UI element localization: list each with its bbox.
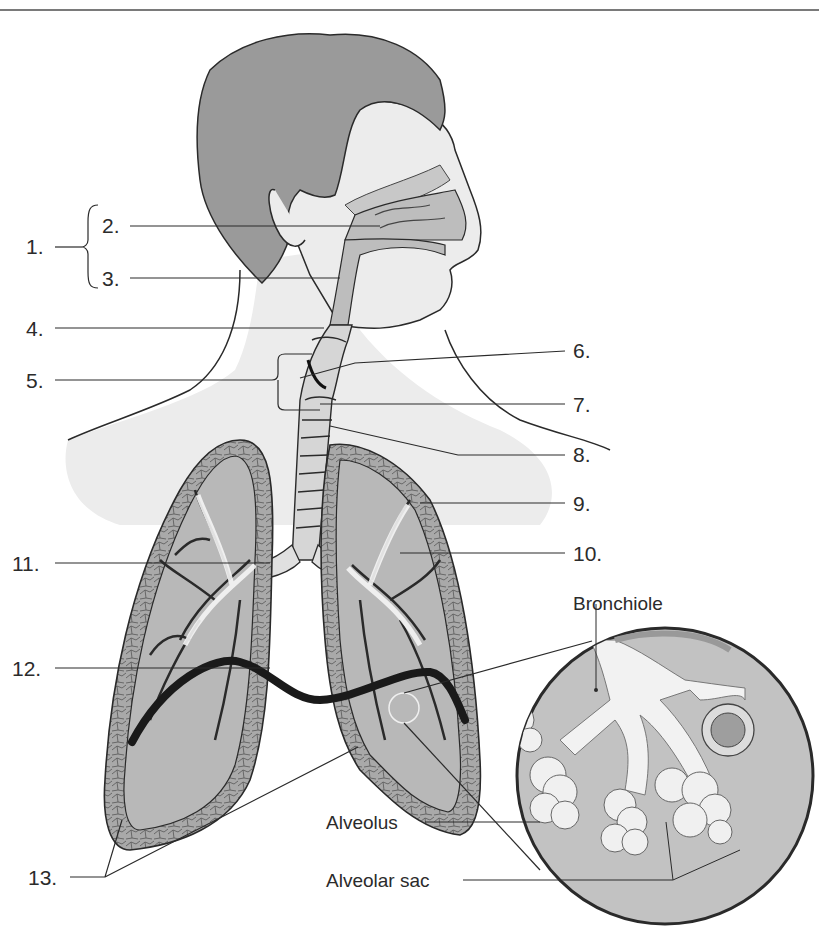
label-3: 3. <box>102 267 120 291</box>
label-4: 4. <box>26 317 44 341</box>
label-2: 2. <box>102 214 120 238</box>
label-5: 5. <box>26 369 44 393</box>
label-13: 13. <box>28 866 57 890</box>
label-6: 6. <box>573 339 591 363</box>
label-11: 11. <box>12 552 40 576</box>
label-alveolus: Alveolus <box>326 811 398 835</box>
label-1: 1. <box>26 235 44 259</box>
label-7: 7. <box>573 393 591 417</box>
alveolus-cross-section <box>702 704 754 756</box>
label-12: 12. <box>12 657 41 681</box>
label-alveolar-sac: Alveolar sac <box>326 869 430 893</box>
label-10: 10. <box>573 542 602 566</box>
label-bronchiole: Bronchiole <box>573 592 663 616</box>
label-8: 8. <box>573 443 591 467</box>
respiratory-illustration <box>0 0 819 932</box>
label-9: 9. <box>573 492 591 516</box>
